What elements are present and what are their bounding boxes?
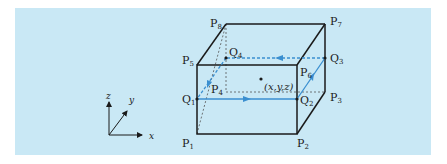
label-p6: P6 bbox=[300, 66, 312, 80]
label-p8: P8 bbox=[210, 17, 222, 31]
label-q3: Q3 bbox=[330, 52, 344, 66]
label-q4: Q4 bbox=[229, 46, 243, 60]
label-p2: P2 bbox=[297, 137, 309, 151]
label-q2: Q2 bbox=[300, 94, 314, 108]
label-q1: Q1 bbox=[182, 93, 196, 107]
label-p4: P4 bbox=[211, 83, 223, 97]
axis-y-label: y bbox=[128, 95, 135, 105]
label-p7: P7 bbox=[330, 15, 342, 29]
cuboid-diagram: P1 P2 P3 P4 P5 P6 P7 P8 Q1 Q2 Q3 Q4 (x,y… bbox=[0, 0, 447, 164]
axes-icon bbox=[109, 102, 142, 135]
label-p5: P5 bbox=[182, 54, 194, 68]
label-p1: P1 bbox=[182, 137, 194, 151]
label-center-point: (x,y,z) bbox=[264, 81, 293, 92]
axis-x-label: x bbox=[149, 131, 154, 141]
axis-z-label: z bbox=[105, 91, 111, 101]
label-p3: P3 bbox=[330, 91, 342, 105]
